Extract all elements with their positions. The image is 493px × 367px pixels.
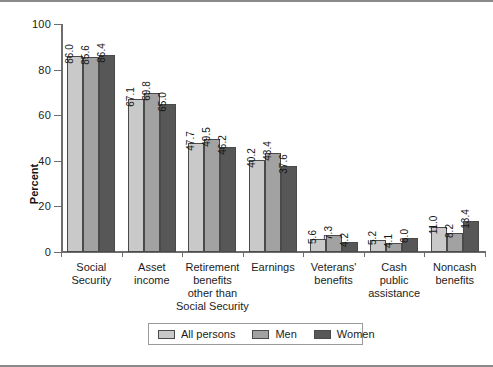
bar[interactable]: 86.4 — [99, 55, 115, 252]
chart-legend: All personsMenWomen — [148, 323, 363, 345]
bar-value-label: 40.2 — [247, 149, 257, 168]
y-axis-tick-label: 60 — [38, 109, 51, 121]
bar-group: 5.67.34.2 — [303, 24, 364, 252]
bar-value-label: 86.4 — [97, 43, 107, 62]
legend-item[interactable]: Women — [314, 328, 375, 340]
bar-value-label: 5.6 — [308, 230, 318, 244]
y-axis-tick — [54, 115, 61, 116]
bar-value-label: 47.7 — [186, 132, 196, 151]
y-axis-tick-label: 0 — [45, 246, 51, 258]
bar[interactable]: 4.1 — [386, 243, 402, 252]
bar-value-label: 65.0 — [158, 92, 168, 111]
bar-value-label: 37.6 — [279, 155, 289, 174]
legend-item[interactable]: All persons — [158, 328, 235, 340]
bar-value-label: 4.1 — [384, 234, 394, 248]
y-axis-tick — [54, 206, 61, 207]
bar[interactable]: 65.0 — [160, 104, 176, 252]
legend-label: Men — [275, 328, 296, 340]
y-axis-tick — [54, 161, 61, 162]
bar-value-label: 11.0 — [429, 216, 439, 235]
bar[interactable]: 46.2 — [220, 147, 236, 252]
bar-value-label: 13.4 — [461, 210, 471, 229]
bar-value-label: 86.0 — [65, 44, 75, 63]
y-axis-tick-label: 80 — [38, 64, 51, 76]
x-axis-category-label: Noncash benefits — [412, 261, 493, 287]
bar[interactable]: 4.2 — [342, 242, 358, 252]
bar-value-label: 49.5 — [202, 127, 212, 146]
x-axis-tick — [243, 251, 244, 257]
bar-value-label: 8.2 — [445, 224, 455, 238]
bar[interactable]: 8.2 — [447, 233, 463, 252]
bar[interactable]: 40.2 — [249, 160, 265, 252]
y-axis-tick — [54, 252, 61, 253]
y-axis-tick-label: 40 — [38, 155, 51, 167]
bar-value-label: 6.0 — [400, 229, 410, 243]
legend-swatch — [158, 330, 175, 339]
bar[interactable]: 86.0 — [67, 56, 83, 252]
x-axis-tick — [122, 251, 123, 257]
x-axis-tick — [364, 251, 365, 257]
legend-swatch — [252, 330, 269, 339]
bar[interactable]: 13.4 — [463, 221, 479, 252]
bar-group: 86.085.686.4 — [61, 24, 122, 252]
bar-value-label: 4.2 — [340, 233, 350, 247]
bar-group: 11.08.213.4 — [424, 24, 485, 252]
bar-value-label: 5.2 — [368, 231, 378, 245]
bar[interactable]: 67.1 — [128, 99, 144, 252]
legend-item[interactable]: Men — [252, 328, 296, 340]
legend-label: All persons — [181, 328, 235, 340]
chart-figure: Percent 02040608010086.085.686.467.169.8… — [0, 0, 493, 367]
x-axis-tick — [182, 251, 183, 257]
bar-group: 5.24.16.0 — [364, 24, 425, 252]
x-axis-tick — [61, 251, 62, 257]
bar-group: 40.243.437.6 — [243, 24, 304, 252]
x-axis-tick — [424, 251, 425, 257]
bar-group: 67.169.865.0 — [122, 24, 183, 252]
y-axis-title: Percent — [28, 163, 40, 203]
bar[interactable]: 69.8 — [144, 93, 160, 252]
bar-value-label: 85.6 — [81, 45, 91, 64]
bar[interactable]: 5.6 — [310, 239, 326, 252]
y-axis-tick-label: 20 — [38, 200, 51, 212]
y-axis-tick-label: 100 — [32, 18, 51, 30]
y-axis-tick — [54, 70, 61, 71]
legend-label: Women — [337, 328, 375, 340]
bar-value-label: 7.3 — [324, 226, 334, 240]
bar[interactable]: 6.0 — [402, 238, 418, 252]
bar[interactable]: 49.5 — [204, 139, 220, 252]
x-axis-tick — [485, 251, 486, 257]
bar-value-label: 43.4 — [263, 141, 273, 160]
bar-value-label: 46.2 — [218, 135, 228, 154]
bar-value-label: 69.8 — [142, 81, 152, 100]
plot-area: 02040608010086.085.686.467.169.865.047.7… — [61, 24, 485, 252]
bar-value-label: 67.1 — [126, 87, 136, 106]
bar[interactable]: 37.6 — [281, 166, 297, 252]
y-axis-tick — [54, 24, 61, 25]
x-axis-tick — [303, 251, 304, 257]
bar[interactable]: 85.6 — [83, 57, 99, 252]
bar[interactable]: 47.7 — [188, 143, 204, 252]
legend-swatch — [314, 330, 331, 339]
bar-group: 47.749.546.2 — [182, 24, 243, 252]
